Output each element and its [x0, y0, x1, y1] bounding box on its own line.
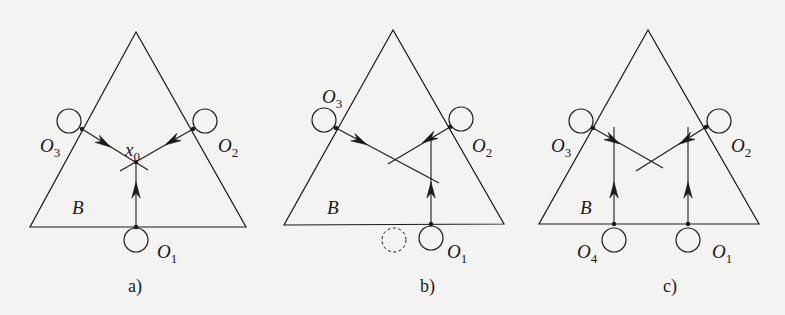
- obstacle-label-o1: O1: [712, 241, 732, 266]
- obstacle-circle-o2: [707, 109, 731, 133]
- obstacle-label-o1: O1: [157, 241, 177, 266]
- direction-ray-line: [336, 128, 439, 183]
- panel-caption: a): [128, 276, 142, 297]
- obstacle-label-o2: O2: [472, 135, 492, 160]
- obstacle-label-o2: O2: [731, 135, 751, 160]
- panel-a: O1O2O3x0Ba): [30, 32, 246, 297]
- region-label: B: [327, 197, 339, 218]
- direction-ray-line: [636, 127, 706, 171]
- obstacle-label-o3: O3: [322, 86, 342, 111]
- arrow-head-icon: [351, 134, 367, 145]
- obstacle-circle-o1: [124, 228, 148, 252]
- direction-ray-line: [388, 127, 450, 164]
- obstacle-circle-o3: [57, 109, 81, 133]
- arrow-head-icon: [422, 131, 438, 143]
- obstacle-label-o2: O2: [218, 135, 238, 160]
- dashed-obstacle-circle: [382, 228, 406, 252]
- obstacle-circle-o3: [569, 109, 593, 133]
- obstacle-label-o1: O1: [447, 241, 467, 266]
- obstacle-circle-o1: [676, 228, 700, 252]
- obstacle-circle-o3: [312, 108, 336, 132]
- direction-ray-line: [593, 128, 663, 168]
- arrow-head-icon: [95, 135, 111, 147]
- triangle-region-boundary: [539, 30, 759, 224]
- region-label: B: [580, 197, 592, 218]
- obstacle-label-o4: O4: [577, 241, 598, 266]
- obstacle-circle-o1: [419, 226, 443, 250]
- arrow-head-icon: [679, 132, 695, 144]
- panel-b: O1O2O3Bb): [284, 30, 504, 297]
- figure-canvas: O1O2O3x0Ba) O1O2O3Bb) O1O2O3O4Bc): [0, 0, 785, 315]
- obstacle-circle-o4: [602, 228, 626, 252]
- arrow-head-icon: [165, 133, 181, 145]
- region-label: B: [72, 197, 84, 218]
- arrow-head-icon: [604, 132, 620, 144]
- obstacle-label-o3: O3: [551, 135, 571, 160]
- panel-caption: b): [420, 276, 435, 297]
- panel-caption: c): [663, 276, 677, 297]
- obstacle-circle-o2: [449, 107, 473, 131]
- obstacle-label-o3: O3: [40, 135, 60, 160]
- triangle-region-boundary: [284, 30, 504, 225]
- panel-c: O1O2O3O4Bc): [539, 30, 759, 297]
- obstacle-circle-o2: [193, 109, 217, 133]
